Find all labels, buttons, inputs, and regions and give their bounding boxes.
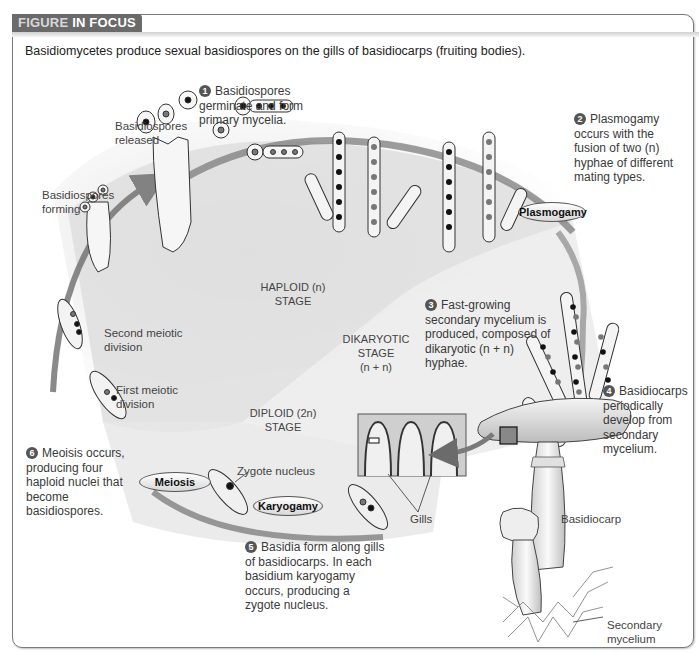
figure-caption: Basidiomycetes produce sexual basidiospo…: [25, 44, 525, 58]
step-2: 2Plasmogamy occurs with the fusion of tw…: [574, 112, 689, 185]
stage-line: STAGE: [243, 420, 323, 434]
secondary-mycelium-label: Secondary mycelium: [607, 618, 662, 646]
annotation-line: mycelium: [607, 632, 662, 646]
step-number-badge: 6: [26, 447, 38, 459]
annotation-line: division: [116, 397, 178, 411]
step-text: Plasmogamy occurs with the fusion of two…: [574, 112, 673, 184]
stage-line: (n + n): [336, 360, 416, 374]
step-text: Fast-growing secondary mycelium is produ…: [425, 298, 550, 370]
annotation-line: released: [115, 133, 187, 147]
meiosis-label: Meiosis: [139, 472, 211, 492]
zygote-nucleus-label: Zygote nucleus: [237, 464, 315, 478]
annotation-line: Secondary: [607, 618, 662, 632]
step-5: 5Basidia form along gills of basidiocarp…: [245, 540, 385, 613]
annotation-line: Basidiospores: [115, 119, 187, 133]
step-number-badge: 3: [425, 299, 437, 311]
step-text: Meoisis occurs, producing four haploid n…: [26, 446, 125, 518]
dikaryotic-stage-label: DIKARYOTIC STAGE (n + n): [336, 332, 416, 374]
annotation-line: division: [104, 340, 183, 354]
step-6: 6Meoisis occurs, producing four haploid …: [26, 446, 126, 519]
haploid-stage-label: HAPLOID (n) STAGE: [253, 280, 333, 308]
step-4: 4Basidiocarps periodically develop from …: [603, 384, 691, 457]
karyogamy-label: Karyogamy: [253, 496, 323, 516]
annotation-line: Second meiotic: [104, 326, 183, 340]
gills-cross-section: [358, 414, 466, 476]
second-meiotic-division-label: Second meiotic division: [104, 326, 183, 354]
step-1: 1Basidiospores germinate and form primar…: [199, 84, 339, 128]
stage-line: STAGE: [336, 346, 416, 360]
step-number-badge: 4: [603, 385, 615, 397]
life-cycle-diagram: 1Basidiospores germinate and form primar…: [13, 62, 692, 645]
secondary-mycelium-pointer: [573, 617, 603, 622]
plasmogamy-label: Plasmogamy: [518, 202, 586, 222]
step-3: 3Fast-growing secondary mycelium is prod…: [425, 298, 555, 371]
stage-line: STAGE: [253, 294, 333, 308]
step-number-badge: 2: [574, 113, 586, 125]
gills-label: Gills: [410, 512, 432, 526]
tab-in-focus-text: IN FOCUS: [72, 15, 136, 30]
header-rule: [12, 32, 699, 37]
stage-line: DIKARYOTIC: [336, 332, 416, 346]
step-text: Basidiocarps periodically develop from s…: [603, 384, 688, 456]
step-number-badge: 1: [199, 85, 211, 97]
first-meiotic-division-label: First meiotic division: [116, 383, 178, 411]
step-number-badge: 5: [245, 541, 257, 553]
annotation-line: Basidiospores: [42, 188, 114, 202]
annotation-line: First meiotic: [116, 383, 178, 397]
basidiospores-released-label: Basidiospores released: [115, 119, 187, 147]
annotation-line: forming: [42, 202, 114, 216]
basidiocarp-label: Basidiocarp: [561, 512, 621, 526]
stage-line: HAPLOID (n): [253, 280, 333, 294]
tab-figure-text: FIGURE: [18, 15, 68, 30]
figure-in-focus-tab: FIGURE IN FOCUS: [12, 14, 142, 32]
stage-line: DIPLOID (2n): [243, 406, 323, 420]
basidiospores-forming-label: Basidiospores forming: [42, 188, 114, 216]
diploid-stage-label: DIPLOID (2n) STAGE: [243, 406, 323, 434]
step-text: Basidiospores germinate and form primary…: [199, 84, 303, 127]
step-text: Basidia form along gills of basidiocarps…: [245, 540, 384, 612]
